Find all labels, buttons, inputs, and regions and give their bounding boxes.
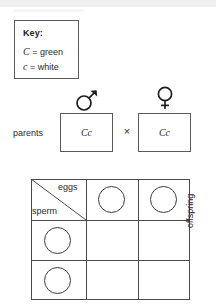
grid-line-bottom xyxy=(31,299,190,300)
parent-box-male: Cc xyxy=(60,113,113,152)
key-meaning-recessive: white xyxy=(38,62,59,72)
gamete-circle-egg-1[interactable] xyxy=(98,186,125,213)
key-title: Key: xyxy=(23,28,43,38)
gamete-circle-sperm-2[interactable] xyxy=(44,267,71,294)
cross-symbol: × xyxy=(120,125,134,137)
grid-line-col-2 xyxy=(138,179,139,300)
key-equals-recessive: = xyxy=(30,62,35,72)
scan-artifact-strip-secondary xyxy=(14,9,84,12)
axis-label-offspring: offspring xyxy=(185,194,195,228)
grid-line-col-1 xyxy=(86,179,87,300)
diagram-canvas: Key: C = green c = white parents Cc × xyxy=(0,0,216,305)
parents-label: parents xyxy=(13,128,43,138)
gamete-circle-egg-2[interactable] xyxy=(150,186,177,213)
grid-line-row-1 xyxy=(31,220,190,221)
key-box: Key: C = green c = white xyxy=(14,20,79,79)
gamete-circle-sperm-1[interactable] xyxy=(44,227,71,254)
parent-box-female: Cc xyxy=(138,113,191,152)
allele-symbol-dominant: C xyxy=(23,46,30,57)
allele-symbol-recessive: c xyxy=(23,61,27,72)
male-symbol xyxy=(74,88,100,112)
female-symbol xyxy=(152,86,178,110)
parent-genotype-male: Cc xyxy=(61,114,112,151)
key-entry-recessive: c = white xyxy=(23,61,59,72)
parent-genotype-female: Cc xyxy=(139,114,190,151)
axis-label-sperm: sperm xyxy=(32,206,57,216)
key-meaning-dominant: green xyxy=(40,47,63,57)
key-entry-dominant: C = green xyxy=(23,46,63,57)
scan-artifact-strip xyxy=(0,0,216,7)
axis-label-eggs: eggs xyxy=(58,182,78,192)
grid-line-row-2 xyxy=(31,260,190,261)
key-equals-dominant: = xyxy=(32,47,37,57)
